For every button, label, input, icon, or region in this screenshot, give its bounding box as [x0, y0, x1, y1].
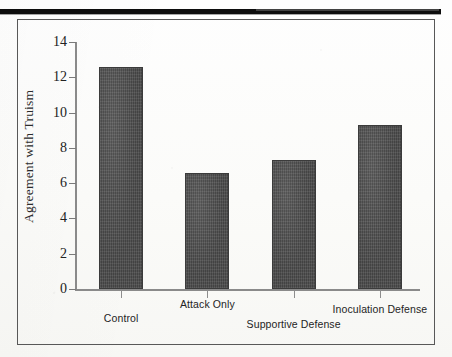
chart-frame-border: [17, 19, 435, 345]
top-horizontal-rule: [0, 9, 441, 14]
